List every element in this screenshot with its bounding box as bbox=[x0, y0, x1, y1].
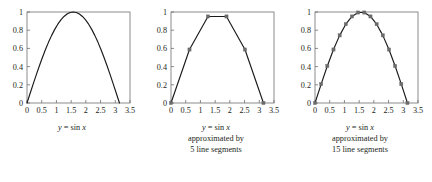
data-point-marker bbox=[262, 101, 265, 104]
data-point-marker bbox=[394, 64, 397, 67]
x-tick-label: 1.5 bbox=[210, 106, 220, 115]
caption-line-approximated-by: approximated by bbox=[295, 133, 425, 144]
y-tick-label: 0.6 bbox=[301, 44, 311, 53]
caption-5-segments: y = sin x approximated by 5 line segment… bbox=[151, 122, 281, 155]
plot-area-15-segments: 00.511.522.533.500.20.40.60.81 bbox=[288, 0, 432, 118]
chart-exact-sine: 00.511.522.533.500.20.40.60.81 bbox=[0, 0, 144, 118]
chart-5-segments: 00.511.522.533.500.20.40.60.81 bbox=[144, 0, 288, 118]
data-point-marker bbox=[169, 101, 172, 104]
data-point-marker bbox=[400, 82, 403, 85]
x-tick-label: 2.5 bbox=[95, 106, 105, 115]
data-curve bbox=[171, 16, 263, 103]
x-tick-label: 3 bbox=[113, 106, 117, 115]
data-point-marker bbox=[363, 11, 366, 14]
x-tick-label: 2 bbox=[372, 106, 376, 115]
data-point-marker bbox=[369, 15, 372, 18]
y-tick-label: 0.4 bbox=[13, 63, 23, 72]
data-point-marker bbox=[225, 15, 228, 18]
plot-area-exact-sine: 00.511.522.533.500.20.40.60.81 bbox=[0, 0, 144, 118]
y-tick-label: 1 bbox=[19, 8, 23, 17]
caption-var-x: x bbox=[82, 123, 86, 132]
data-point-marker bbox=[243, 48, 246, 51]
caption-line-segments: 5 line segments bbox=[151, 144, 281, 155]
caption-line-segments: 15 line segments bbox=[295, 144, 425, 155]
caption-15-segments: y = sin x approximated by 15 line segmen… bbox=[295, 122, 425, 155]
x-tick-label: 0 bbox=[25, 106, 29, 115]
x-tick-label: 2.5 bbox=[383, 106, 393, 115]
caption-line: y = sin x bbox=[7, 122, 137, 133]
y-tick-label: 0.8 bbox=[301, 26, 311, 35]
y-tick-label: 0 bbox=[163, 99, 167, 108]
x-tick-label: 3.5 bbox=[413, 106, 423, 115]
caption-var-x: x bbox=[370, 123, 374, 132]
data-point-marker bbox=[406, 101, 409, 104]
data-point-marker bbox=[357, 11, 360, 14]
x-tick-label: 2 bbox=[84, 106, 88, 115]
data-point-marker bbox=[387, 48, 390, 51]
x-tick-label: 0.5 bbox=[181, 106, 191, 115]
x-tick-label: 3 bbox=[401, 106, 405, 115]
data-point-marker bbox=[206, 15, 209, 18]
caption-line: y = sin x bbox=[295, 122, 425, 133]
data-point-marker bbox=[188, 48, 191, 51]
data-point-marker bbox=[320, 82, 323, 85]
y-tick-label: 0 bbox=[307, 99, 311, 108]
caption-var-y: y bbox=[346, 123, 350, 132]
x-tick-label: 3.5 bbox=[269, 106, 279, 115]
y-tick-label: 0.2 bbox=[301, 81, 311, 90]
y-tick-label: 0.6 bbox=[13, 44, 23, 53]
y-tick-label: 0.4 bbox=[301, 63, 311, 72]
data-point-marker bbox=[326, 64, 329, 67]
data-point-marker bbox=[338, 34, 341, 37]
y-tick-label: 1 bbox=[163, 8, 167, 17]
panel-15-segments: 00.511.522.533.500.20.40.60.81 y = sin x… bbox=[288, 0, 432, 182]
data-point-marker bbox=[381, 34, 384, 37]
x-tick-label: 1 bbox=[342, 106, 346, 115]
x-tick-label: 1.5 bbox=[66, 106, 76, 115]
x-tick-label: 1 bbox=[54, 106, 58, 115]
caption-line: y = sin x bbox=[151, 122, 281, 133]
x-tick-label: 2.5 bbox=[239, 106, 249, 115]
data-point-marker bbox=[332, 48, 335, 51]
y-tick-label: 0.6 bbox=[157, 44, 167, 53]
panel-exact-sine: 00.511.522.533.500.20.40.60.81 y = sin x bbox=[0, 0, 144, 182]
data-curve bbox=[27, 12, 119, 103]
y-tick-label: 0.2 bbox=[157, 81, 167, 90]
chart-15-segments: 00.511.522.533.500.20.40.60.81 bbox=[288, 0, 432, 118]
caption-var-y: y bbox=[58, 123, 62, 132]
x-tick-label: 0 bbox=[169, 106, 173, 115]
x-tick-label: 3 bbox=[257, 106, 261, 115]
data-curve bbox=[315, 13, 407, 104]
y-tick-label: 0.8 bbox=[13, 26, 23, 35]
x-tick-label: 1 bbox=[198, 106, 202, 115]
caption-var-x: x bbox=[226, 123, 230, 132]
x-tick-label: 3.5 bbox=[125, 106, 135, 115]
caption-line-approximated-by: approximated by bbox=[151, 133, 281, 144]
plot-area-5-segments: 00.511.522.533.500.20.40.60.81 bbox=[144, 0, 288, 118]
data-point-marker bbox=[344, 23, 347, 26]
caption-var-y: y bbox=[202, 123, 206, 132]
x-tick-label: 0.5 bbox=[37, 106, 47, 115]
data-point-marker bbox=[375, 23, 378, 26]
y-tick-label: 0.8 bbox=[157, 26, 167, 35]
x-tick-label: 2 bbox=[228, 106, 232, 115]
y-tick-label: 0 bbox=[19, 99, 23, 108]
y-tick-label: 0.2 bbox=[13, 81, 23, 90]
data-point-marker bbox=[313, 101, 316, 104]
panel-5-segments: 00.511.522.533.500.20.40.60.81 y = sin x… bbox=[144, 0, 288, 182]
x-tick-label: 1.5 bbox=[354, 106, 364, 115]
y-tick-label: 1 bbox=[307, 8, 311, 17]
data-point-marker bbox=[350, 15, 353, 18]
y-tick-label: 0.4 bbox=[157, 63, 167, 72]
x-tick-label: 0 bbox=[313, 106, 317, 115]
caption-exact-sine: y = sin x bbox=[7, 122, 137, 133]
x-tick-label: 0.5 bbox=[325, 106, 335, 115]
sine-approximation-figure: 00.511.522.533.500.20.40.60.81 y = sin x… bbox=[0, 0, 432, 182]
